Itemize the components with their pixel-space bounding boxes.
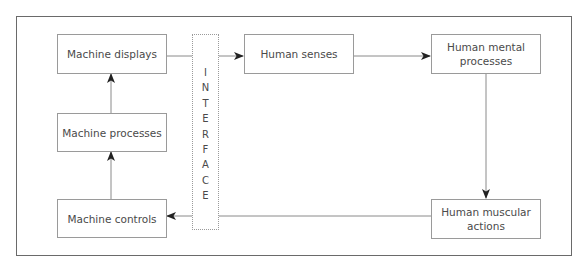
node-human-muscular-actions: Human muscular actions [431, 199, 541, 239]
node-label: Machine displays [67, 47, 157, 61]
node-machine-processes: Machine processes [57, 113, 167, 152]
node-label-line1: Human muscular [441, 205, 531, 219]
node-human-senses: Human senses [244, 34, 354, 74]
interface-letter: F [203, 142, 209, 157]
node-label: Machine processes [62, 126, 162, 140]
node-human-mental-processes: Human mental processes [431, 34, 541, 74]
node-label-line2: processes [460, 54, 512, 68]
interface-letter: R [202, 127, 209, 142]
node-label-line1: Human mental [447, 40, 525, 54]
interface-letter: I [204, 65, 207, 80]
interface-letter: N [202, 80, 209, 95]
interface-bar: I N T E R F A C E [192, 34, 219, 230]
interface-letter: T [202, 96, 208, 111]
interface-letter: A [202, 157, 209, 172]
interface-letter: E [202, 188, 208, 203]
node-label: Human senses [260, 47, 337, 61]
interface-letter: C [202, 173, 209, 188]
node-label-line2: actions [467, 219, 505, 233]
interface-letter: E [202, 111, 208, 126]
node-machine-displays: Machine displays [57, 34, 167, 74]
interface-label: I N T E R F A C E [193, 65, 218, 204]
node-machine-controls: Machine controls [57, 199, 167, 238]
node-label: Machine controls [67, 212, 156, 226]
